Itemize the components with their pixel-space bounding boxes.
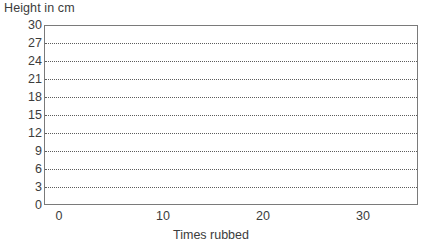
y-tick-label: 0	[2, 199, 42, 212]
gridline-6	[45, 169, 417, 170]
gridline-12	[45, 133, 417, 134]
x-tick-label: 30	[343, 209, 383, 223]
y-axis-tick-labels: 30 27 24 21 18 15 12 9 6 3 0	[0, 25, 42, 205]
y-tick-label: 30	[2, 19, 42, 32]
y-tick-label: 15	[2, 109, 42, 122]
y-tick-label: 21	[2, 73, 42, 86]
chart-figure: Height in cm 30 27 24 21 18 15 12 9 6 3 …	[0, 0, 422, 250]
plot-area	[44, 25, 418, 205]
gridline-18	[45, 97, 417, 98]
gridline-9	[45, 151, 417, 152]
gridline-27	[45, 43, 417, 44]
gridline-15	[45, 115, 417, 116]
x-tick-label: 20	[243, 209, 283, 223]
y-tick-label: 24	[2, 55, 42, 68]
gridline-21	[45, 79, 417, 80]
x-tick-label: 0	[39, 209, 79, 223]
x-tick-label: 10	[143, 209, 183, 223]
y-tick-label: 9	[2, 145, 42, 158]
y-tick-label: 27	[2, 37, 42, 50]
y-tick-label: 6	[2, 163, 42, 176]
x-axis-tick-labels: 0 10 20 30	[44, 209, 418, 225]
x-axis-title: Times rubbed	[44, 228, 378, 242]
y-axis-title: Height in cm	[4, 1, 75, 15]
gridline-24	[45, 61, 417, 62]
y-tick-label: 18	[2, 91, 42, 104]
y-tick-label: 12	[2, 127, 42, 140]
y-tick-label: 3	[2, 181, 42, 194]
gridline-3	[45, 187, 417, 188]
